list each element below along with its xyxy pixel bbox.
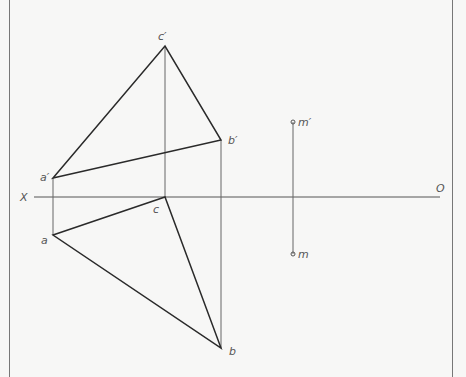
label-a-prime: a′ [40, 171, 50, 184]
front-view-triangle [53, 46, 221, 178]
label-m: m [298, 248, 309, 261]
label-b: b [229, 345, 236, 358]
label-c-prime: c′ [158, 30, 167, 43]
top-view-triangle [53, 197, 221, 348]
axis-label-x: X [19, 191, 28, 204]
label-c: c [153, 203, 159, 216]
label-m-prime: m′ [298, 116, 312, 129]
label-a: a [41, 234, 48, 247]
label-b-prime: b′ [228, 134, 238, 147]
axis-label-o: O [436, 182, 445, 195]
projection-diagram: X O c′ b′ a′ c a b m′ m [0, 0, 466, 377]
